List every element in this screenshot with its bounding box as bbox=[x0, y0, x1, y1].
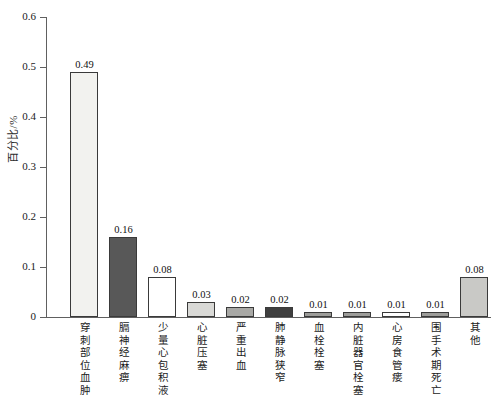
x-axis-tick-label: 围手术期死亡 bbox=[416, 322, 455, 398]
x-axis-tick-label: 少量心包积液 bbox=[143, 322, 182, 398]
y-axis-tick-label: 0 bbox=[31, 310, 41, 322]
x-axis-line bbox=[46, 317, 491, 318]
bar-group: 0.03 bbox=[182, 17, 221, 317]
bar-group: 0.08 bbox=[455, 17, 494, 317]
x-axis-tick-label: 严重出血 bbox=[221, 322, 260, 372]
bar[interactable] bbox=[109, 237, 137, 317]
bar[interactable] bbox=[460, 277, 488, 317]
y-axis-title: 百分比/% bbox=[4, 94, 20, 184]
y-axis-tick-label: 0.5 bbox=[22, 60, 40, 72]
bar-group: 0.02 bbox=[260, 17, 299, 317]
bar-group: 0.49 bbox=[65, 17, 104, 317]
bar-value-label: 0.03 bbox=[192, 289, 210, 300]
plot-area: 0.490.160.080.030.020.020.010.010.010.01… bbox=[46, 17, 491, 317]
x-axis-tick-label: 血栓栓塞 bbox=[299, 322, 338, 372]
bar-value-label: 0.16 bbox=[114, 224, 132, 235]
bar-group: 0.02 bbox=[221, 17, 260, 317]
bar-value-label: 0.01 bbox=[426, 299, 444, 310]
y-axis-tick-label: 0.2 bbox=[22, 210, 40, 222]
bar-value-label: 0.01 bbox=[387, 299, 405, 310]
bar-value-label: 0.02 bbox=[270, 294, 288, 305]
bar-group: 0.01 bbox=[299, 17, 338, 317]
y-axis-tick-label: 0.4 bbox=[22, 110, 40, 122]
bar[interactable] bbox=[343, 312, 371, 317]
x-axis-tick-label: 穿刺部位血肿 bbox=[65, 322, 104, 398]
bar-group: 0.08 bbox=[143, 17, 182, 317]
x-axis-tick-label: 肺静脉狭窄 bbox=[260, 322, 299, 385]
bar-group: 0.01 bbox=[416, 17, 455, 317]
bar[interactable] bbox=[265, 307, 293, 317]
bar-group: 0.16 bbox=[104, 17, 143, 317]
x-axis-tick-label: 心房食管瘘 bbox=[377, 322, 416, 385]
bar[interactable] bbox=[382, 312, 410, 317]
bar-value-label: 0.01 bbox=[309, 299, 327, 310]
y-axis-tick-label: 0.3 bbox=[22, 160, 40, 172]
bar[interactable] bbox=[70, 72, 98, 317]
bar[interactable] bbox=[304, 312, 332, 317]
y-axis-tick-label: 0.1 bbox=[22, 260, 40, 272]
x-axis-tick-label: 膈神经麻痹 bbox=[104, 322, 143, 385]
x-axis-tick-label: 其他 bbox=[455, 322, 494, 347]
bar-group: 0.01 bbox=[377, 17, 416, 317]
x-axis-tick-label: 心脏压塞 bbox=[182, 322, 221, 372]
x-axis-tick-label: 内脏器官栓塞 bbox=[338, 322, 377, 398]
bar-value-label: 0.08 bbox=[153, 264, 171, 275]
bar-value-label: 0.01 bbox=[348, 299, 366, 310]
bar-group: 0.01 bbox=[338, 17, 377, 317]
bar-value-label: 0.08 bbox=[465, 264, 483, 275]
y-axis-tick-label: 0.6 bbox=[22, 10, 40, 22]
bar-value-label: 0.49 bbox=[75, 59, 93, 70]
bar-chart: 百分比/% 00.10.20.30.40.50.6 0.490.160.080.… bbox=[0, 0, 499, 401]
bar[interactable] bbox=[148, 277, 176, 317]
y-axis-tick: 0 bbox=[40, 317, 47, 318]
bar[interactable] bbox=[187, 302, 215, 317]
bar[interactable] bbox=[226, 307, 254, 317]
bar-value-label: 0.02 bbox=[231, 294, 249, 305]
bar[interactable] bbox=[421, 312, 449, 317]
